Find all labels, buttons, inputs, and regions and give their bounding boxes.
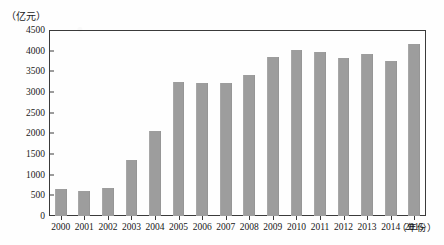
x-axis-tick-label: 2003: [122, 222, 141, 232]
bars-layer: [49, 30, 426, 216]
x-axis-tick-label: 2009: [263, 222, 282, 232]
bar-2013: [361, 54, 373, 216]
x-axis-tick-label: 2012: [334, 222, 353, 232]
bar-2005: [173, 82, 185, 216]
x-axis-tick-mark: [131, 216, 132, 220]
x-axis-tick-label: 2000: [51, 222, 70, 232]
bar-2001: [78, 191, 90, 216]
y-axis-tick-label: 1000: [26, 170, 45, 180]
x-axis-tick-mark: [155, 216, 156, 220]
x-axis-tick-mark: [320, 216, 321, 220]
bar-2011: [314, 52, 326, 216]
x-axis-tick-label: 2010: [287, 222, 306, 232]
x-axis-tick-label: 2004: [146, 222, 165, 232]
x-axis-tick-mark: [108, 216, 109, 220]
bar-2014: [385, 61, 397, 216]
bar-2003: [126, 160, 138, 216]
x-axis-tick-mark: [249, 216, 250, 220]
bar-2015: [408, 44, 420, 216]
y-axis-tick-label: 4000: [26, 46, 45, 56]
x-axis-tick-label: 2007: [216, 222, 235, 232]
x-axis-tick-mark: [273, 216, 274, 220]
y-axis-tick-label: 2500: [26, 108, 45, 118]
bar-2000: [55, 189, 67, 216]
y-axis-tick-label: 4500: [26, 25, 45, 35]
y-axis: 050010001500200025003000350040004500: [0, 24, 49, 224]
bar-2007: [220, 83, 232, 217]
y-axis-tick-label: 3500: [26, 66, 45, 76]
x-axis-tick-mark: [344, 216, 345, 220]
bar-chart: （亿元） 05001000150020002500300035004000450…: [0, 0, 444, 245]
x-axis-tick-mark: [367, 216, 368, 220]
y-axis-tick-label: 0: [40, 211, 45, 221]
y-axis-tick-label: 2000: [26, 128, 45, 138]
x-axis-tick-mark: [179, 216, 180, 220]
x-axis-tick-label: 2002: [98, 222, 117, 232]
bar-2006: [196, 83, 208, 216]
y-axis-tick-label: 3000: [26, 87, 45, 97]
x-axis-tick-label: 2005: [169, 222, 188, 232]
bar-2008: [243, 75, 255, 216]
x-axis-tick-mark: [296, 216, 297, 220]
x-axis-title: （年份）: [397, 220, 437, 234]
x-axis-tick-mark: [84, 216, 85, 220]
y-axis-unit-label: （亿元）: [6, 8, 46, 23]
bar-2004: [149, 131, 161, 216]
bar-2002: [102, 188, 114, 216]
x-axis-tick-label: 2001: [75, 222, 94, 232]
x-axis-tick-mark: [226, 216, 227, 220]
y-axis-tick-label: 1500: [26, 149, 45, 159]
x-axis-tick-mark: [61, 216, 62, 220]
bar-2012: [338, 58, 350, 216]
x-axis-tick-label: 2011: [311, 222, 330, 232]
x-axis-tick-mark: [202, 216, 203, 220]
bar-2009: [267, 57, 279, 216]
bar-2010: [291, 50, 303, 216]
x-axis: 2000200120022003200420052006200720082009…: [49, 216, 426, 244]
y-axis-tick-label: 500: [31, 190, 45, 200]
x-axis-tick-label: 2008: [240, 222, 259, 232]
x-axis-tick-mark: [391, 216, 392, 220]
x-axis-tick-label: 2006: [193, 222, 212, 232]
x-axis-tick-label: 2013: [358, 222, 377, 232]
